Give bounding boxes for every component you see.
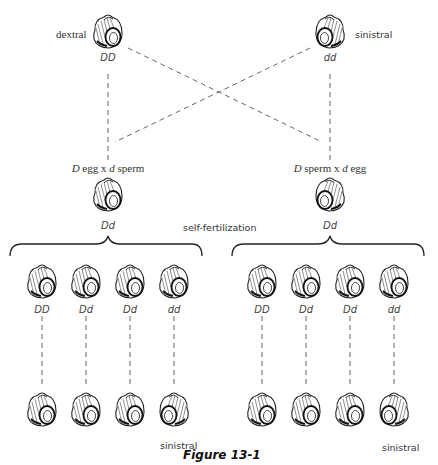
genotype-parent-left: DD	[100, 52, 115, 63]
genotype-f1-right: Dd	[323, 220, 337, 231]
figure-caption: Figure 13-1	[183, 448, 261, 462]
genotype-f2-right-3: Dd	[343, 304, 357, 315]
genotype-f2-right-1: DD	[254, 304, 269, 315]
snail-coiling-inheritance-diagram: dextral DD sinistral dd D egg x d sperm …	[0, 0, 438, 465]
shell-f2-left-4-icon	[155, 264, 193, 302]
shell-f3-left-3-icon	[111, 392, 149, 430]
shell-f3-right-2-icon	[287, 392, 325, 430]
brace-right	[232, 236, 424, 256]
dashed-line-dextral-to-right-cross	[128, 48, 322, 142]
genotype-f2-left-2: Dd	[79, 304, 93, 315]
shell-f3-right-3-icon	[331, 392, 369, 430]
shell-f3-left-4-sinistral-icon	[155, 392, 193, 430]
genotype-f1-left: Dd	[101, 220, 115, 231]
label-dextral: dextral	[56, 28, 87, 40]
cross-label-right: D sperm x d egg	[294, 162, 367, 174]
shell-f2-left-3-icon	[111, 264, 149, 302]
genotype-f2-right-4: dd	[388, 304, 401, 315]
shell-f3-left-1-icon	[23, 392, 61, 430]
genotype-f2-left-4: dd	[168, 304, 181, 315]
shell-parent-sinistral-icon	[311, 14, 349, 52]
shell-f2-right-4-icon	[375, 264, 413, 302]
label-sinistral: sinistral	[355, 29, 392, 40]
genotype-f2-right-2: Dd	[299, 304, 313, 315]
cross-label-left: D egg x d sperm	[72, 162, 145, 174]
shell-f2-right-1-icon	[243, 264, 281, 302]
genotype-parent-right: dd	[324, 52, 337, 63]
shell-f2-left-2-icon	[67, 264, 105, 302]
genotype-f2-left-3: Dd	[123, 304, 137, 315]
shell-f3-right-4-sinistral-icon	[375, 392, 413, 430]
shell-f1-right-sinistral-icon	[311, 177, 349, 215]
label-self-fertilization: self-fertilization	[183, 222, 256, 233]
shell-f3-left-2-icon	[67, 392, 105, 430]
shell-f2-right-3-icon	[331, 264, 369, 302]
shell-parent-dextral-icon	[89, 14, 127, 52]
shell-f3-right-1-icon	[243, 392, 281, 430]
brace-left	[10, 236, 202, 256]
shell-f2-right-2-icon	[287, 264, 325, 302]
label-f3-right-sinistral: sinistral	[382, 442, 419, 453]
dashed-line-sinistral-to-left-cross	[115, 48, 310, 142]
shell-f1-left-dextral-icon	[89, 177, 127, 215]
shell-f2-left-1-icon	[23, 264, 61, 302]
genotype-f2-left-1: DD	[34, 304, 49, 315]
